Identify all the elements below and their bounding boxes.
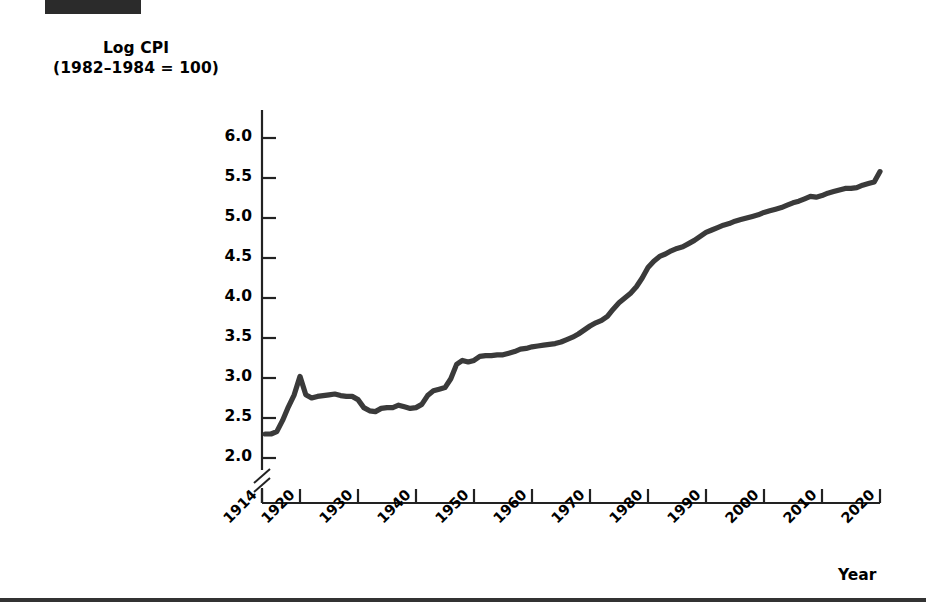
x-axis-title: Year bbox=[838, 566, 876, 584]
figure-root: Log CPI (1982–1984 = 100) 2.02.53.03.54.… bbox=[0, 0, 926, 608]
plot-area: 2.02.53.03.54.04.55.05.56.0 191419201930… bbox=[0, 0, 926, 608]
y-tick-label-2.0: 2.0 bbox=[192, 447, 252, 465]
series-line-0 bbox=[265, 172, 880, 434]
y-tick-label-5.5: 5.5 bbox=[192, 167, 252, 185]
y-tick-label-2.5: 2.5 bbox=[192, 407, 252, 425]
chart-axes bbox=[254, 110, 880, 503]
y-tick-marks bbox=[262, 138, 276, 458]
y-tick-label-3.5: 3.5 bbox=[192, 327, 252, 345]
data-series-layer bbox=[265, 172, 880, 434]
y-tick-label-4.5: 4.5 bbox=[192, 247, 252, 265]
y-tick-label-3.0: 3.0 bbox=[192, 367, 252, 385]
bottom-rule bbox=[0, 598, 926, 602]
y-tick-label-4.0: 4.0 bbox=[192, 287, 252, 305]
y-tick-label-6.0: 6.0 bbox=[192, 127, 252, 145]
y-tick-label-5.0: 5.0 bbox=[192, 207, 252, 225]
